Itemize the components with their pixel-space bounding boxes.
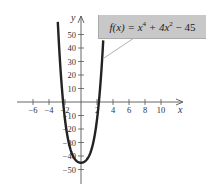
ticks: −6−4−22468105040302010−10−20−30−40−50 xyxy=(28,30,165,175)
callout-leader-line xyxy=(104,38,134,58)
function-label-callout: f(x) = x4 + 4x2 − 45 xyxy=(98,15,206,39)
y-tick-label: 20 xyxy=(68,70,77,80)
x-tick-label: 4 xyxy=(111,105,116,115)
x-axis-label: x xyxy=(177,104,183,115)
y-axis-label: y xyxy=(70,12,76,23)
constant-part: − 45 xyxy=(173,21,196,33)
y-tick-label: 40 xyxy=(68,43,77,53)
x-tick-label: 10 xyxy=(157,105,166,115)
eq-part: = x xyxy=(125,21,143,33)
x-tick-label: 6 xyxy=(127,105,131,115)
y-tick-label: 10 xyxy=(68,84,77,94)
y-tick-label: 50 xyxy=(68,30,77,40)
function-name: f(x) xyxy=(109,21,124,33)
y-tick-label: 30 xyxy=(68,57,77,67)
x-tick-label: −6 xyxy=(28,105,37,115)
mid-part: + 4x xyxy=(146,21,169,33)
y-tick-label: −50 xyxy=(63,165,76,175)
function-label: f(x) = x4 + 4x2 − 45 xyxy=(109,20,195,33)
x-tick-label: −4 xyxy=(44,105,54,115)
x-tick-label: 8 xyxy=(143,105,147,115)
